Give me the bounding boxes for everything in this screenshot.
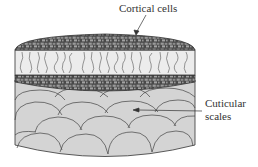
cuticular-scales-label-line1: Cuticular [205,97,246,109]
top-cortex-layer [15,34,195,50]
hair-fiber-diagram [0,0,258,167]
cuticular-scales-label-line2: scales [205,110,231,122]
fibril-band [15,50,195,75]
cuticle-scales-layer [15,80,195,157]
cortical-cells-label: Cortical cells [119,2,177,14]
